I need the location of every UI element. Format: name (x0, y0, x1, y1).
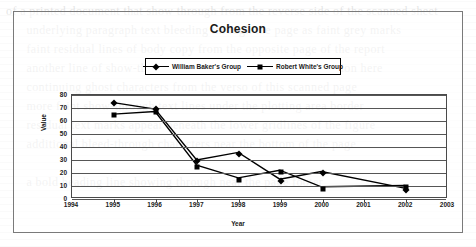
y-tick-label: 60 (60, 117, 67, 124)
gridline (72, 95, 446, 96)
x-axis-tick-labels: 1994199519961997199819992000200120022003 (71, 201, 447, 213)
y-tick-label: 50 (60, 130, 67, 137)
gridline (72, 108, 446, 109)
diamond-marker-icon (152, 63, 159, 70)
y-tick-label: 10 (60, 182, 67, 189)
chart-legend[interactable]: William Baker's Group Robert White's Gro… (145, 58, 341, 75)
gridline (72, 121, 446, 122)
data-point-square (111, 112, 116, 117)
x-tick-label: 1994 (64, 201, 78, 208)
x-axis-title: Year (14, 220, 462, 227)
legend-item-series-2[interactable]: Robert White's Group (247, 63, 343, 71)
gridline (72, 160, 446, 161)
series-line-2 (114, 112, 405, 187)
legend-label-series-1: William Baker's Group (172, 63, 241, 70)
x-tick-label: 2000 (314, 201, 328, 208)
y-tick-label: 20 (60, 169, 67, 176)
legend-label-series-2: Robert White's Group (276, 63, 343, 70)
gridline (72, 186, 446, 187)
gridline (72, 173, 446, 174)
x-tick-label: 2002 (398, 201, 412, 208)
x-tick-label: 1996 (147, 201, 161, 208)
gridline (72, 134, 446, 135)
y-tick-label: 40 (60, 143, 67, 150)
series-lines (72, 95, 446, 197)
y-axis-title: Value (40, 114, 47, 131)
x-tick-label: 2003 (440, 201, 454, 208)
x-tick-label: 1995 (106, 201, 120, 208)
y-axis-tick-labels: 01020304050607080 (47, 94, 67, 198)
y-tick-label: 70 (60, 104, 67, 111)
data-point-square (404, 185, 409, 190)
legend-swatch-diamond-icon (143, 63, 169, 71)
square-marker-icon (258, 64, 263, 69)
plot-area (71, 94, 447, 198)
chart-frame: Cohesion William Baker's Group Robert Wh… (13, 11, 463, 233)
chart-title: Cohesion (14, 22, 462, 36)
y-tick-label: 80 (60, 91, 67, 98)
x-tick-label: 1999 (273, 201, 287, 208)
x-tick-label: 2001 (356, 201, 370, 208)
series-line-1 (114, 103, 405, 188)
x-tick-label: 1997 (189, 201, 203, 208)
data-point-square (278, 169, 283, 174)
legend-swatch-square-icon (247, 63, 273, 71)
data-point-square (153, 109, 158, 114)
legend-item-series-1[interactable]: William Baker's Group (143, 63, 241, 71)
x-tick-label: 1998 (231, 201, 245, 208)
gridline (72, 147, 446, 148)
y-tick-label: 30 (60, 156, 67, 163)
data-point-square (195, 164, 200, 169)
data-point-square (320, 186, 325, 191)
data-point-square (237, 177, 242, 182)
gridline (72, 199, 446, 200)
